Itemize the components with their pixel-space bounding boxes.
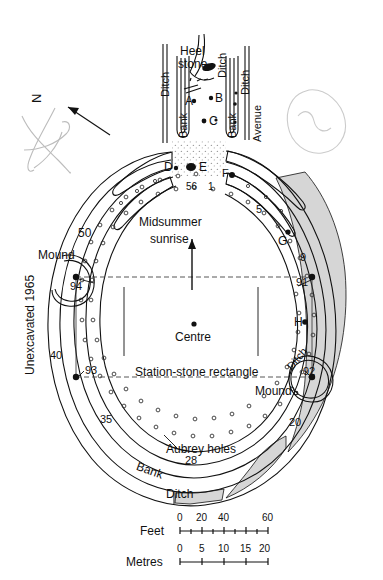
metres-tick-20: 20 <box>259 544 270 554</box>
leader-lines <box>79 279 311 448</box>
heel-E-stone <box>186 163 196 171</box>
metres-tick-5: 5 <box>199 544 205 554</box>
station-stone-93 <box>73 374 79 380</box>
station-stone-93-label: 93 <box>85 365 97 376</box>
feet-scale-bar <box>180 527 268 534</box>
north-label: N <box>30 94 43 103</box>
bank-left-label: Bank <box>178 113 189 138</box>
unexcavated-label: Unexcavated 1965 <box>24 275 36 375</box>
mound-right-label: Mound <box>255 385 292 397</box>
marker-C <box>202 119 207 124</box>
aubrey-number-40: 40 <box>50 350 62 361</box>
station-stone-91-label: 91 <box>296 277 308 288</box>
metres-tick-0: 0 <box>177 544 183 554</box>
feet-tick-60: 60 <box>262 513 273 523</box>
feet-tick-40: 40 <box>218 513 229 523</box>
slaughter-stone-dashes <box>184 78 208 93</box>
heel-stone-label-line1: Heel <box>180 45 205 57</box>
station-stone-92-label: 92 <box>303 366 315 377</box>
bank-right-label: Bank <box>227 113 238 138</box>
marker-G-label: G <box>278 235 287 247</box>
aubrey-number-28: 28 <box>185 455 197 466</box>
aubrey-holes-label: Aubrey holes <box>166 443 236 455</box>
ditch-mid-label: Ditch <box>217 53 228 78</box>
aubrey-number-5: 5 <box>256 204 262 215</box>
metres-scale-bar <box>180 558 268 565</box>
midsummer-label-line2: sunrise <box>150 233 189 245</box>
midsummer-label-line1: Midsummer <box>139 216 202 228</box>
marker-B-label: B <box>215 92 223 104</box>
feet-scale-label: Feet <box>140 525 164 537</box>
centre-label: Centre <box>175 331 211 343</box>
marker-H <box>302 319 308 325</box>
station-stone-rectangle-lines <box>76 277 312 377</box>
station-stone-rectangle-label: Station-stone rectangle <box>135 366 258 378</box>
doodle-left <box>22 108 70 173</box>
aubrey-number-35: 35 <box>100 414 112 425</box>
aubrey-number-50: 50 <box>78 227 91 239</box>
north-arrow <box>68 107 110 135</box>
heel-stone-label-line2: stone <box>178 58 207 70</box>
marker-B <box>209 96 213 100</box>
aubrey-number-1: 1 <box>208 182 214 192</box>
mound-left-label: Mound <box>38 249 75 261</box>
station-stone-94-label: 94 <box>70 281 82 292</box>
ditch-left-label: Ditch <box>160 72 171 97</box>
centre-marker <box>191 321 196 326</box>
marker-A-label: A <box>185 95 193 107</box>
ditch-right-label: Ditch <box>240 70 251 95</box>
midsummer-sunrise-arrow <box>188 239 196 290</box>
doodle-right <box>287 90 345 153</box>
ditch-bottom-label: Ditch <box>166 488 193 500</box>
marker-H-label: H <box>294 316 303 328</box>
feet-tick-0: 0 <box>177 513 183 523</box>
metres-tick-15: 15 <box>240 544 251 554</box>
aubrey-number-9: 9 <box>300 252 306 263</box>
avenue-label: Avenue <box>252 105 263 142</box>
marker-F-label: F <box>222 168 229 179</box>
marker-F <box>229 172 235 178</box>
station-stone-91 <box>309 274 315 280</box>
metres-tick-10: 10 <box>218 544 229 554</box>
marker-D-label: D <box>164 161 173 173</box>
aubrey-number-56: 56 <box>186 182 197 192</box>
aubrey-number-20: 20 <box>289 417 301 428</box>
marker-E-label: E <box>199 161 207 173</box>
marker-C-label: C <box>209 115 218 127</box>
marker-D <box>174 166 178 170</box>
aubrey-hole-circle-lower <box>91 292 301 421</box>
feet-tick-20: 20 <box>196 513 207 523</box>
metres-scale-label: Metres <box>126 556 163 568</box>
